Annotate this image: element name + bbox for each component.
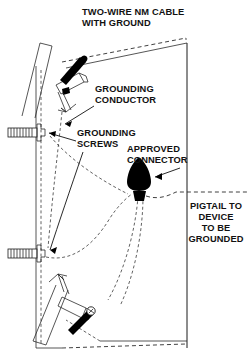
- lower-screw-shaft: [8, 249, 37, 258]
- grounding-conductor-line-1: GROUNDING: [95, 84, 154, 94]
- upper-screw-shaft: [8, 128, 37, 137]
- pigtail-line-4: GROUNDED: [188, 234, 243, 244]
- grounding-conductor-line-2: CONDUCTOR: [95, 95, 156, 105]
- approved-connector-line-2: CONNECTOR: [127, 155, 188, 165]
- title-line-2: WITH GROUND: [82, 18, 151, 28]
- grounding-screws-line-2: SCREWS: [77, 139, 118, 149]
- pigtail-line-1: PIGTAIL TO: [190, 201, 242, 211]
- approved-connector-line-1: APPROVED: [127, 144, 180, 154]
- pigtail-line-3: TO BE: [202, 223, 231, 233]
- grounding-screws-line-1: GROUNDING: [77, 128, 136, 138]
- pigtail-line-2: DEVICE: [198, 212, 233, 222]
- title-line-1: TWO-WIRE NM CABLE: [82, 7, 184, 17]
- wiring-diagram: TWO-WIRE NM CABLE WITH GROUND: [0, 0, 249, 359]
- connector-skirt: [133, 191, 146, 201]
